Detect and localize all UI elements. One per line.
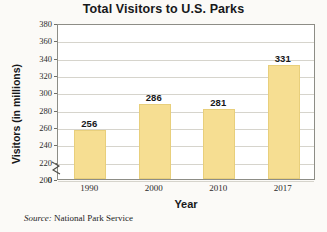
y-axis-tick-mark (54, 59, 57, 60)
y-axis-tick-label: 280 (22, 106, 52, 116)
y-axis-tick-label: 220 (22, 158, 52, 168)
y-axis-tick-label: 240 (22, 140, 52, 150)
bar (74, 130, 106, 179)
y-axis-tick-mark (54, 128, 57, 129)
bar (203, 109, 235, 179)
y-axis-tick-mark (54, 111, 57, 112)
y-axis-tick-mark (54, 145, 57, 146)
bar-chart-figure: Total Visitors to U.S. Parks Visitors (i… (0, 0, 327, 232)
chart-title: Total Visitors to U.S. Parks (0, 2, 327, 16)
x-axis-tick-label: 2017 (274, 183, 292, 193)
x-axis-tick-label: 2010 (209, 183, 227, 193)
gridline (58, 42, 314, 43)
y-axis-tick-mark (54, 41, 57, 42)
y-axis-tick-label: 320 (22, 71, 52, 81)
bar (268, 65, 300, 179)
x-axis-title: Year (55, 198, 317, 210)
plot-area (57, 24, 315, 180)
y-axis-tick-label: 300 (22, 88, 52, 98)
y-axis-title: Visitors (in millions) (10, 54, 22, 174)
gridline (58, 181, 314, 182)
source-text: National Park Service (54, 213, 133, 223)
bar-value-label: 256 (81, 118, 97, 129)
y-axis-tick-mark (54, 180, 57, 181)
y-axis-tick-mark (54, 93, 57, 94)
y-axis-tick-mark (54, 24, 57, 25)
bar (139, 104, 171, 179)
y-axis-tick-label: 380 (22, 19, 52, 29)
y-axis-tick-label: 360 (22, 36, 52, 46)
bar-value-label: 286 (146, 92, 162, 103)
source-note: Source: National Park Service (24, 213, 133, 223)
y-axis-tick-mark (54, 163, 57, 164)
bar-value-label: 331 (275, 53, 291, 64)
y-axis-tick-label: 260 (22, 123, 52, 133)
y-axis-tick-label: 340 (22, 54, 52, 64)
y-axis-tick-label-zero: 0 (22, 175, 52, 185)
bar-value-label: 281 (210, 97, 226, 108)
y-axis-break-icon (51, 161, 63, 175)
x-axis-tick-label: 2000 (145, 183, 163, 193)
y-axis-tick-mark (54, 76, 57, 77)
source-label: Source: (24, 213, 52, 223)
x-axis-tick-label: 1990 (80, 183, 98, 193)
